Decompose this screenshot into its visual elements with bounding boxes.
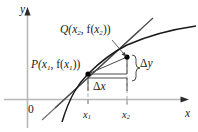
y-axis-label: y	[20, 4, 25, 16]
tick-label-x2: x2	[122, 110, 130, 121]
delta-y-brace	[132, 55, 140, 81]
delta-x-label: Δx	[93, 81, 106, 93]
q-label-leader	[112, 40, 127, 57]
x-axis-label: x	[185, 108, 190, 120]
x-axis	[4, 96, 189, 102]
point-p-label: P(x1, f(x1))	[31, 59, 80, 72]
point-q-label: Q(x2, f(x2))	[60, 24, 111, 37]
origin-label: 0	[28, 104, 34, 116]
secant-line-figure: Q(x2, f(x2)) P(x1, f(x1)) Δy Δx x1 x2 0 …	[0, 0, 198, 132]
point-p-marker	[85, 71, 90, 76]
tick-label-x1: x1	[83, 110, 91, 121]
delta-y-label: Δy	[140, 58, 153, 70]
